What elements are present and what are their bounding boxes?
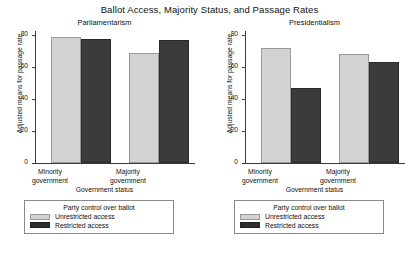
y-tick-label: 0	[24, 158, 28, 165]
legend-item-restricted: Restricted access	[30, 222, 168, 229]
y-axis-line	[35, 31, 36, 164]
y-tick-80: 80	[242, 35, 245, 36]
panel-title: Parliamentarism	[2, 18, 207, 27]
y-tick-label: 20	[21, 126, 28, 133]
y-tick-20: 20	[242, 131, 245, 132]
legend-title: Party control over ballot	[240, 204, 378, 211]
x-category-line1: Minority	[220, 168, 300, 177]
legend-label: Restricted access	[265, 222, 319, 229]
x-category-line2: government	[298, 177, 378, 186]
legend-swatch-dark	[240, 222, 260, 228]
y-tick-label: 60	[231, 62, 238, 69]
legend-title: Party control over ballot	[30, 204, 168, 211]
panel-presidentialism: Presidentialism Adjusted means for passa…	[212, 18, 417, 258]
y-tick-40: 40	[242, 99, 245, 100]
legend: Party control over ballot Unrestricted a…	[234, 200, 384, 234]
legend-label: Unrestricted access	[265, 213, 325, 220]
x-category-minority: Minority government	[220, 168, 300, 185]
y-tick-label: 40	[231, 94, 238, 101]
legend-swatch-light	[30, 214, 50, 220]
bar-majority-unrestricted	[129, 53, 159, 163]
y-tick-0: 0	[242, 163, 245, 164]
legend-label: Unrestricted access	[55, 213, 115, 220]
y-tick-60: 60	[242, 67, 245, 68]
y-tick-label: 40	[21, 94, 28, 101]
panel-parliamentarism: Parliamentarism Adjusted means for passa…	[2, 18, 207, 258]
bar-minority-unrestricted	[261, 48, 291, 163]
x-category-line2: government	[220, 177, 300, 186]
x-category-line1: Majority	[88, 168, 168, 177]
panel-title: Presidentialism	[212, 18, 417, 27]
x-category-majority: Majority government	[298, 168, 378, 185]
figure-canvas: Ballot Access, Majority Status, and Pass…	[0, 0, 419, 258]
bar-majority-restricted	[369, 62, 399, 163]
y-tick-label: 80	[21, 30, 28, 37]
x-axis-label: Government status	[212, 186, 417, 193]
x-category-line2: government	[88, 177, 168, 186]
legend-item-restricted: Restricted access	[240, 222, 378, 229]
legend-label: Restricted access	[55, 222, 109, 229]
y-tick-label: 60	[21, 62, 28, 69]
bar-minority-restricted	[291, 88, 321, 163]
y-axis-line	[245, 31, 246, 164]
x-axis-label: Government status	[2, 186, 207, 193]
bar-minority-restricted	[81, 39, 111, 163]
legend: Party control over ballot Unrestricted a…	[24, 200, 174, 234]
x-category-majority: Majority government	[88, 168, 168, 185]
bar-majority-restricted	[159, 40, 189, 163]
legend-item-unrestricted: Unrestricted access	[30, 213, 168, 220]
x-category-line2: government	[10, 177, 90, 186]
legend-swatch-light	[240, 214, 260, 220]
x-axis-line	[245, 163, 405, 164]
x-category-line1: Minority	[10, 168, 90, 177]
x-axis-line	[35, 163, 195, 164]
y-tick-20: 20	[32, 131, 35, 132]
legend-swatch-dark	[30, 222, 50, 228]
bar-minority-unrestricted	[51, 37, 81, 163]
y-tick-label: 20	[231, 126, 238, 133]
plot-area: 80 60 40 20 0	[245, 31, 405, 164]
y-tick-label: 0	[234, 158, 238, 165]
x-category-minority: Minority government	[10, 168, 90, 185]
y-tick-80: 80	[32, 35, 35, 36]
y-tick-60: 60	[32, 67, 35, 68]
y-tick-label: 80	[231, 30, 238, 37]
legend-item-unrestricted: Unrestricted access	[240, 213, 378, 220]
figure-title: Ballot Access, Majority Status, and Pass…	[0, 4, 419, 15]
y-tick-0: 0	[32, 163, 35, 164]
plot-area: 80 60 40 20 0	[35, 31, 195, 164]
x-category-line1: Majority	[298, 168, 378, 177]
bar-majority-unrestricted	[339, 54, 369, 163]
y-tick-40: 40	[32, 99, 35, 100]
